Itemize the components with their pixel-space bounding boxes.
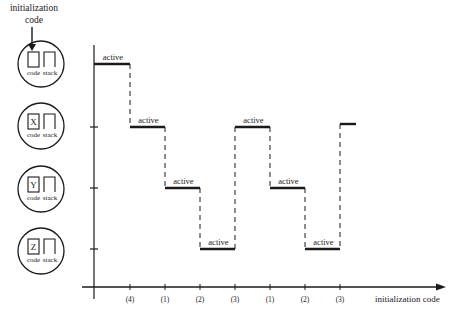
active-segment: active bbox=[200, 188, 235, 249]
x-tick-label: (2) bbox=[301, 295, 310, 304]
x-axis-arrow-icon bbox=[436, 284, 446, 291]
stack-box bbox=[44, 52, 55, 67]
active-label: active bbox=[313, 237, 334, 247]
stack-label: stack bbox=[43, 131, 58, 139]
x-tick-label: (4) bbox=[126, 295, 135, 304]
code-label: code bbox=[27, 131, 40, 139]
active-segment: active bbox=[130, 64, 165, 127]
x-tick-label: (2) bbox=[196, 295, 205, 304]
x-tick-label: (3) bbox=[231, 295, 240, 304]
code-label: code bbox=[27, 256, 40, 264]
x-tick-label: (1) bbox=[161, 295, 170, 304]
active-label: active bbox=[103, 52, 124, 62]
active-label: active bbox=[138, 115, 159, 125]
stack-label: stack bbox=[43, 194, 58, 202]
x-tick-label: (3) bbox=[336, 295, 345, 304]
annotation-line-2: code bbox=[25, 15, 43, 25]
x-axis-label: initialization code bbox=[375, 294, 440, 304]
code-box bbox=[28, 52, 39, 67]
code-label: code bbox=[27, 69, 40, 77]
activity-steps: activeactiveactiveactiveactiveactiveacti… bbox=[94, 52, 356, 249]
process-id-label: Z bbox=[31, 242, 37, 252]
stack-box bbox=[44, 239, 55, 254]
active-segment: active bbox=[305, 188, 340, 249]
process-id-label: Y bbox=[30, 180, 37, 190]
active-segment: active bbox=[270, 127, 305, 188]
process-circle-X: Xcodestack bbox=[18, 103, 64, 149]
annotation-line-1: initialization bbox=[10, 3, 58, 13]
process-circle-init: codestack bbox=[18, 41, 64, 87]
stack-label: stack bbox=[43, 69, 58, 77]
x-tick-label: (1) bbox=[266, 295, 275, 304]
axes bbox=[82, 45, 446, 299]
active-label: active bbox=[278, 176, 299, 186]
process-id-label: X bbox=[30, 117, 37, 127]
active-segment: active bbox=[235, 115, 270, 249]
active-segment: active bbox=[94, 52, 130, 64]
process-circles: codestackXcodestackYcodestackZcodestack bbox=[18, 41, 64, 274]
stack-label: stack bbox=[43, 256, 58, 264]
active-segment: active bbox=[165, 127, 200, 188]
stack-box bbox=[44, 114, 55, 129]
process-circle-Z: Zcodestack bbox=[18, 228, 64, 274]
active-label: active bbox=[173, 176, 194, 186]
code-label: code bbox=[27, 194, 40, 202]
process-circle-Y: Ycodestack bbox=[18, 166, 64, 212]
active-segment bbox=[340, 124, 356, 249]
process-switching-diagram: initialization code codestackXcodestackY… bbox=[0, 0, 451, 319]
pointer-arrow-icon bbox=[28, 27, 36, 51]
active-label: active bbox=[208, 237, 229, 247]
active-label: active bbox=[243, 115, 264, 125]
stack-box bbox=[44, 177, 55, 192]
